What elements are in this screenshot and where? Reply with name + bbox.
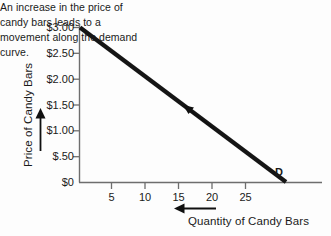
demand-curve-figure: $3.00 $2.50 $2.00 $1.50 $1.00 $.50 $0 5 …	[0, 0, 331, 236]
xtick-label-25: 25	[232, 191, 260, 204]
xtick-label-10: 10	[131, 191, 159, 204]
x-axis-title: Quantity of Candy Bars	[188, 215, 309, 229]
ytick-label-0: $0	[22, 176, 74, 189]
y-axis-title: Price of Candy Bars	[22, 63, 36, 167]
quantity-decrease-arrow	[174, 204, 216, 214]
x-axis-ticks	[112, 183, 246, 190]
xtick-label-5: 5	[98, 191, 126, 204]
ytick-label-2-50: $2.50	[22, 47, 74, 60]
demand-curve	[80, 28, 286, 183]
demand-curve-label: D	[275, 166, 283, 179]
ytick-label-3-00: $3.00	[22, 21, 74, 34]
curve-movement-arrow	[183, 105, 214, 129]
xtick-label-20: 20	[198, 191, 226, 204]
xtick-label-15: 15	[165, 191, 193, 204]
